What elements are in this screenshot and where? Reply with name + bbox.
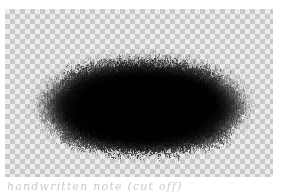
- page-root: handwritten note (cut off): [0, 0, 285, 192]
- transparent-canvas[interactable]: [5, 9, 273, 177]
- smudge-blend: [57, 69, 229, 143]
- smudge-hatch-texture: [25, 47, 265, 165]
- smudge-halo-outer: [31, 51, 255, 159]
- smudge-strokes: [25, 47, 265, 165]
- artwork-layer: [5, 9, 273, 177]
- checker-pattern: [5, 9, 273, 177]
- smudge-top-fringe: [65, 62, 217, 96]
- smudge-body-pass2: [47, 64, 243, 152]
- handwritten-annotation: handwritten note (cut off): [7, 180, 237, 192]
- smudge-hatch-texture-2: [31, 55, 257, 157]
- smudge-bottom-fringe: [61, 121, 229, 153]
- smudge-body: [39, 56, 247, 154]
- smudge-core: [59, 74, 219, 142]
- smudge-core-solid: [77, 75, 217, 133]
- charcoal-smudge-icon: [5, 9, 273, 177]
